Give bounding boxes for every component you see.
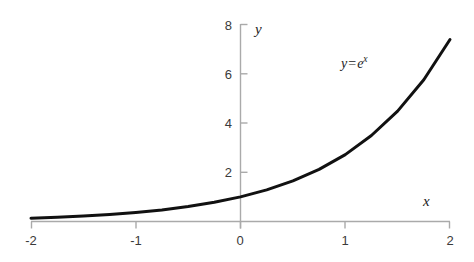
x-tick-label--2: -2: [25, 234, 37, 247]
y-axis-label: y: [255, 22, 262, 37]
exponential-function-chart: 8 6 4 2 -2 -1 0 1 2 y x y=ex: [0, 0, 474, 262]
x-axis-label: x: [423, 194, 430, 209]
x-tick-label-2: 2: [446, 234, 453, 247]
y-tick-label-6: 6: [225, 68, 232, 81]
y-tick-label-2: 2: [225, 166, 232, 179]
y-tick-label-8: 8: [225, 19, 232, 32]
equation-exponent: x: [363, 54, 367, 64]
plot-area: [0, 0, 474, 262]
x-tick-label-0: 0: [236, 234, 243, 247]
x-tick-label--1: -1: [130, 234, 142, 247]
x-tick-label-1: 1: [341, 234, 348, 247]
equation-annotation: y=ex: [341, 57, 368, 71]
equation-operator: =: [347, 56, 357, 71]
y-tick-label-4: 4: [225, 117, 232, 130]
